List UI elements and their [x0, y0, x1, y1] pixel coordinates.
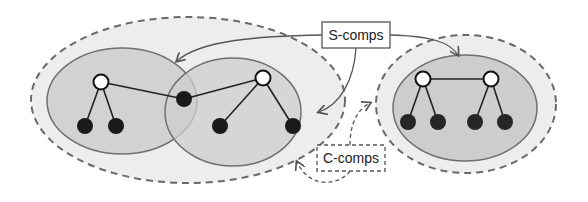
white-node	[416, 72, 431, 87]
component-diagram: S-comps C-comps	[0, 0, 588, 202]
black-node	[108, 118, 124, 134]
shared-black-node	[176, 91, 192, 107]
black-node	[212, 118, 228, 134]
white-node	[256, 71, 271, 86]
s-comps-label-box: S-comps	[322, 22, 390, 48]
black-node	[400, 114, 416, 130]
c-comps-label: C-comps	[323, 150, 379, 166]
black-node	[430, 114, 446, 130]
white-node	[94, 75, 109, 90]
c-comps-label-box: C-comps	[317, 145, 385, 171]
black-node	[285, 118, 301, 134]
black-node	[497, 114, 513, 130]
black-node	[77, 118, 93, 134]
black-node	[467, 114, 483, 130]
white-node	[484, 72, 499, 87]
s-comps-label: S-comps	[328, 27, 383, 43]
s-comp-3	[393, 55, 537, 161]
